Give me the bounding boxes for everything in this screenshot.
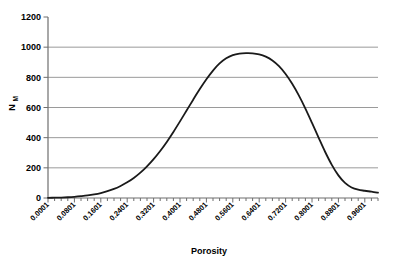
x-tick-label: 0.7201 (266, 200, 289, 223)
y-tick-label: 1200 (21, 12, 41, 22)
chart-svg: 020040060080010001200 0.00010.08010.1601… (0, 0, 398, 266)
x-tick-label-group: 0.5601 (213, 200, 236, 223)
x-tick-label: 0.8801 (319, 200, 342, 223)
x-tick-label-group: 0.4001 (160, 200, 183, 223)
y-tick-label: 600 (26, 103, 41, 113)
y-axis-title: N M (7, 96, 19, 111)
x-tick-label: 0.1601 (81, 200, 104, 223)
y-tick-label: 800 (26, 73, 41, 83)
x-axis-title: Porosity (191, 246, 227, 256)
y-axis-ticks (44, 17, 49, 198)
x-tick-label: 0.0001 (28, 200, 51, 223)
x-tick-label: 0.4801 (187, 200, 210, 223)
y-tick-labels: 020040060080010001200 (21, 12, 41, 203)
x-tick-label-group: 0.3201 (134, 200, 157, 223)
x-tick-label-group: 0.7201 (266, 200, 289, 223)
x-tick-label-group: 0.8801 (319, 200, 342, 223)
x-tick-label-group: 0.1601 (81, 200, 104, 223)
x-tick-label: 0.5601 (213, 200, 236, 223)
x-tick-label-group: 0.8001 (292, 200, 315, 223)
y-axis-title-subscript: M (12, 96, 19, 101)
x-tick-label-group: 0.4801 (187, 200, 210, 223)
chart-container: 020040060080010001200 0.00010.08010.1601… (0, 0, 398, 266)
y-tick-label: 400 (26, 133, 41, 143)
x-tick-label-group: 0.0801 (55, 200, 78, 223)
x-tick-label: 0.6401 (240, 200, 263, 223)
x-tick-label: 0.2401 (108, 200, 131, 223)
x-tick-label: 0.3201 (134, 200, 157, 223)
x-tick-label: 0.8001 (292, 200, 315, 223)
y-tick-label: 200 (26, 163, 41, 173)
x-tick-labels: 0.00010.08010.16010.24010.32010.40010.48… (28, 200, 367, 223)
x-tick-label-group: 0.6401 (240, 200, 263, 223)
x-tick-label-group: 0.2401 (108, 200, 131, 223)
x-tick-label-group: 0.0001 (28, 200, 51, 223)
x-tick-label-group: 0.9601 (345, 200, 368, 223)
x-tick-label: 0.9601 (345, 200, 368, 223)
y-axis-title-main: N (7, 104, 17, 111)
x-tick-label: 0.4001 (160, 200, 183, 223)
x-tick-label: 0.0801 (55, 200, 78, 223)
y-tick-label: 0 (36, 193, 41, 203)
y-tick-label: 1000 (21, 42, 41, 52)
